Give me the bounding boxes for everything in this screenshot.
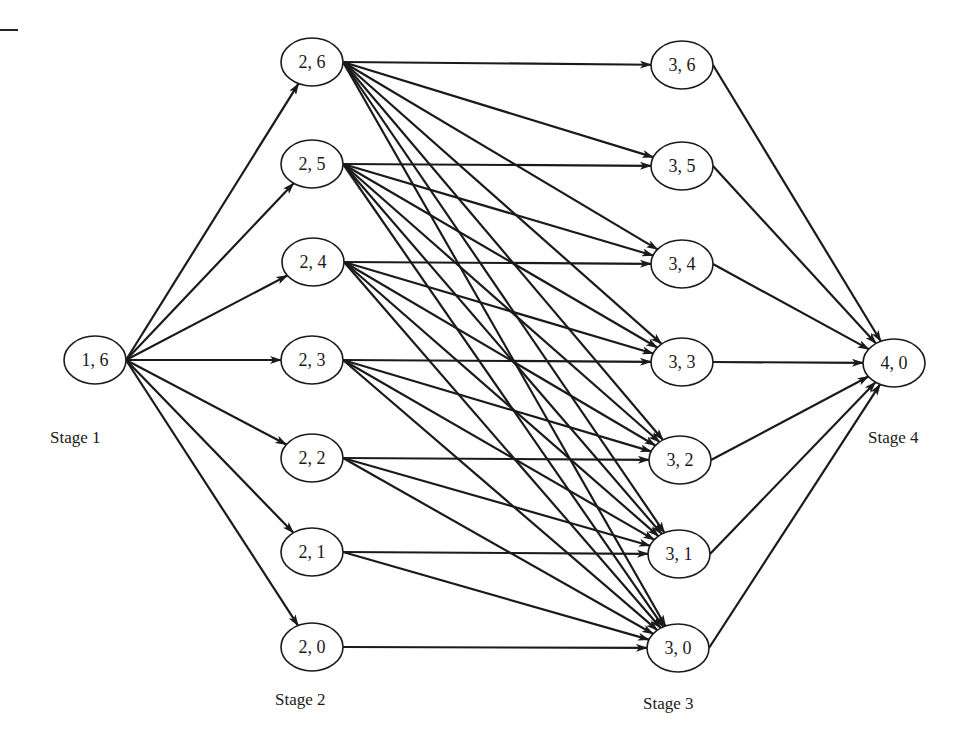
edge-2-3-to-3-3	[343, 360, 651, 362]
node-2-0: 2, 0	[281, 623, 343, 671]
node-label: 4, 0	[881, 353, 908, 373]
node-layer: 1, 62, 62, 52, 42, 32, 22, 12, 03, 63, 5…	[64, 38, 925, 672]
node-label: 3, 5	[669, 156, 696, 176]
edge-layer	[126, 62, 881, 648]
edge-3-1-to-4-0	[710, 382, 875, 554]
node-label: 2, 1	[299, 542, 326, 562]
edge-1-6-to-2-2	[126, 360, 286, 444]
edge-2-4-to-3-0	[344, 262, 661, 628]
node-2-1: 2, 1	[281, 528, 343, 576]
edge-3-5-to-4-0	[713, 166, 876, 343]
node-label: 2, 6	[299, 52, 326, 72]
edge-3-4-to-4-0	[713, 264, 869, 349]
edge-2-0-to-3-0	[343, 647, 647, 648]
edge-1-6-to-2-6	[126, 84, 299, 360]
edge-2-5-to-3-4	[343, 164, 653, 255]
node-label: 2, 2	[299, 448, 326, 468]
node-label: 3, 0	[665, 638, 692, 658]
node-3-3: 3, 3	[651, 338, 713, 386]
node-label: 2, 0	[299, 637, 326, 657]
edge-2-5-to-3-0	[343, 164, 663, 627]
node-label: 2, 3	[299, 350, 326, 370]
edge-3-6-to-4-0	[713, 65, 881, 341]
node-3-1: 3, 1	[648, 530, 710, 578]
edge-2-6-to-3-6	[343, 62, 651, 65]
node-label: 1, 6	[82, 350, 109, 370]
edge-2-4-to-3-3	[344, 262, 653, 353]
node-label: 2, 4	[300, 252, 327, 272]
edge-3-2-to-4-0	[711, 377, 868, 460]
edge-2-1-to-3-1	[343, 552, 648, 554]
node-3-0: 3, 0	[647, 624, 709, 672]
node-1-6: 1, 6	[64, 336, 126, 384]
edge-3-0-to-4-0	[709, 384, 880, 648]
edge-3-3-to-4-0	[713, 362, 863, 363]
stage-label-4: Stage 4	[868, 428, 919, 448]
top-left-rule	[0, 29, 18, 31]
node-4-0: 4, 0	[863, 339, 925, 387]
edge-2-5-to-3-3	[343, 164, 657, 348]
node-3-2: 3, 2	[649, 436, 711, 484]
node-3-4: 3, 4	[651, 240, 713, 288]
stage-label-2: Stage 2	[275, 690, 326, 710]
node-2-3: 2, 3	[281, 336, 343, 384]
edge-1-6-to-2-1	[126, 360, 293, 533]
edge-2-6-to-3-1	[343, 62, 665, 533]
edge-2-2-to-3-1	[343, 458, 650, 546]
edge-2-6-to-3-2	[343, 62, 663, 440]
edge-1-6-to-2-4	[126, 275, 287, 360]
edge-2-1-to-3-0	[343, 552, 649, 640]
node-2-4: 2, 4	[282, 238, 344, 286]
node-2-5: 2, 5	[281, 140, 343, 188]
node-label: 3, 3	[669, 352, 696, 372]
node-label: 3, 1	[666, 544, 693, 564]
edge-2-5-to-3-1	[343, 164, 662, 534]
network-graph: 1, 62, 62, 52, 42, 32, 22, 12, 03, 63, 5…	[0, 0, 973, 740]
node-3-6: 3, 6	[651, 41, 713, 89]
edge-1-6-to-2-5	[126, 183, 294, 360]
node-label: 3, 6	[669, 55, 696, 75]
edge-2-6-to-3-4	[343, 62, 657, 249]
edge-1-6-to-2-0	[126, 360, 298, 626]
node-label: 2, 5	[299, 154, 326, 174]
node-label: 3, 2	[667, 450, 694, 470]
edge-2-4-to-3-4	[344, 262, 651, 264]
stage-label-3: Stage 3	[643, 694, 694, 714]
staged-network-diagram: 1, 62, 62, 52, 42, 32, 22, 12, 03, 63, 5…	[0, 0, 973, 740]
edge-2-2-to-3-2	[343, 458, 649, 460]
edge-2-5-to-3-5	[343, 164, 651, 166]
node-label: 3, 4	[669, 254, 696, 274]
stage-label-1: Stage 1	[50, 428, 101, 448]
node-2-6: 2, 6	[281, 38, 343, 86]
node-2-2: 2, 2	[281, 434, 343, 482]
node-3-5: 3, 5	[651, 142, 713, 190]
